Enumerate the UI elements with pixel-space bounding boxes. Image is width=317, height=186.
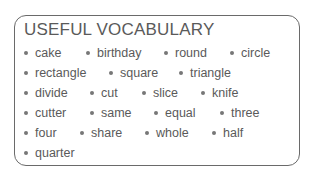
vocab-item: triangle — [179, 66, 231, 80]
bullet-icon — [24, 71, 28, 75]
vocab-item: equal — [154, 106, 196, 120]
box-title: USEFUL VOCABULARY — [24, 20, 214, 40]
vocab-item: cut — [90, 86, 118, 100]
bullet-icon — [220, 111, 224, 115]
bullet-icon — [24, 111, 28, 115]
vocab-item: slice — [142, 86, 178, 100]
vocab-item: rectangle — [24, 66, 86, 80]
vocab-item: four — [24, 126, 57, 140]
bullet-icon — [80, 131, 84, 135]
bullet-icon — [24, 91, 28, 95]
vocab-item: whole — [145, 126, 189, 140]
vocab-item: share — [80, 126, 122, 140]
bullet-icon — [109, 71, 113, 75]
vocab-item: birthday — [86, 46, 141, 60]
vocab-item: cutter — [24, 106, 66, 120]
vocab-item: divide — [24, 86, 68, 100]
bullet-icon — [154, 111, 158, 115]
vocab-item: circle — [230, 46, 270, 60]
bullet-icon — [86, 51, 90, 55]
vocab-item: same — [90, 106, 132, 120]
vocab-item: cake — [24, 46, 61, 60]
bullet-icon — [145, 131, 149, 135]
bullet-icon — [90, 91, 94, 95]
bullet-icon — [90, 111, 94, 115]
bullet-icon — [142, 91, 146, 95]
bullet-icon — [164, 51, 168, 55]
bullet-icon — [24, 131, 28, 135]
bullet-icon — [212, 131, 216, 135]
bullet-icon — [230, 51, 234, 55]
vocab-item: square — [109, 66, 158, 80]
bullet-icon — [24, 151, 28, 155]
bullet-icon — [179, 71, 183, 75]
vocab-item: round — [164, 46, 207, 60]
vocab-item: half — [212, 126, 243, 140]
vocab-item: knife — [201, 86, 238, 100]
bullet-icon — [24, 51, 28, 55]
vocab-item: three — [220, 106, 260, 120]
bullet-icon — [201, 91, 205, 95]
vocab-item: quarter — [24, 146, 75, 160]
